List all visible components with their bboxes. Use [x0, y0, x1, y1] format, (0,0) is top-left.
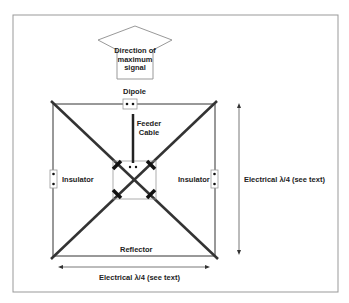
dipole-box — [123, 99, 137, 109]
insulator-right-icon — [211, 170, 218, 188]
insulator-right-label: Insulator — [178, 176, 210, 185]
dim-vertical-label: Electrical λ/4 (see text) — [244, 176, 325, 185]
dim-horizontal-label: Electrical λ/4 (see text) — [99, 274, 180, 283]
feeder-label: Feeder Cable — [136, 120, 162, 137]
dipole-label: Dipole — [123, 88, 146, 97]
insulator-left-icon — [50, 170, 57, 188]
reflector-label: Reflector — [120, 246, 153, 255]
insulator-left-label: Insulator — [62, 176, 94, 185]
antenna-diagram — [0, 0, 349, 303]
arrow-label: Direction of maximum signal — [113, 47, 157, 73]
